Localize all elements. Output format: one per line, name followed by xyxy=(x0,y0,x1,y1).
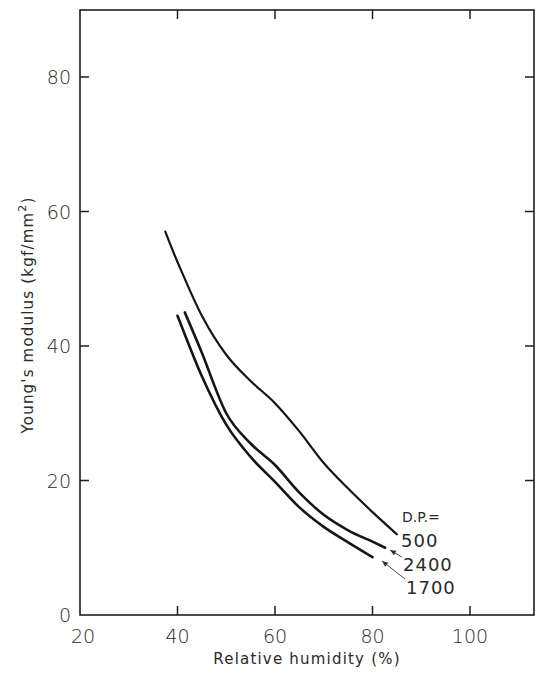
curve-dp-2400 xyxy=(185,312,385,547)
plot-border xyxy=(80,10,534,615)
x-tick-label: 40 xyxy=(165,625,189,647)
x-tick-label: 20 xyxy=(71,625,95,647)
x-tick-label: 80 xyxy=(360,625,384,647)
x-tick-label: 100 xyxy=(452,625,488,647)
y-tick-label: 80 xyxy=(47,66,71,88)
y-tick-label: 0 xyxy=(59,604,71,626)
x-axis-label: Relative humidity (%) xyxy=(213,650,400,668)
y-axis-label-main: Young's modulus (kgf/mm xyxy=(19,212,37,435)
chart: 20406080100 020406080 Relative humidity … xyxy=(0,0,540,690)
arrow-1700-head xyxy=(382,561,388,567)
y-tick-label: 40 xyxy=(47,335,71,357)
y-tick-label: 60 xyxy=(47,201,71,223)
x-tick-label: 60 xyxy=(263,625,287,647)
x-axis-ticks: 20406080100 xyxy=(71,10,488,647)
series-label-1700: 1700 xyxy=(406,577,456,598)
label-arrows xyxy=(382,550,405,579)
arrow-2400-head xyxy=(390,550,396,555)
y-axis-label-close: ) xyxy=(19,196,37,203)
series-label-500: 500 xyxy=(401,530,438,551)
y-axis-ticks: 020406080 xyxy=(47,66,534,626)
curve-dp-1700 xyxy=(178,316,373,557)
y-axis-label-sup: 2 xyxy=(16,203,29,211)
y-tick-label: 20 xyxy=(47,470,71,492)
plot-frame xyxy=(80,10,534,615)
y-axis-label: Young's modulus (kgf/mm2) xyxy=(16,196,37,434)
series-label-2400: 2400 xyxy=(403,554,453,575)
legend-title: D.P.= xyxy=(402,509,440,525)
data-curves xyxy=(165,232,397,557)
